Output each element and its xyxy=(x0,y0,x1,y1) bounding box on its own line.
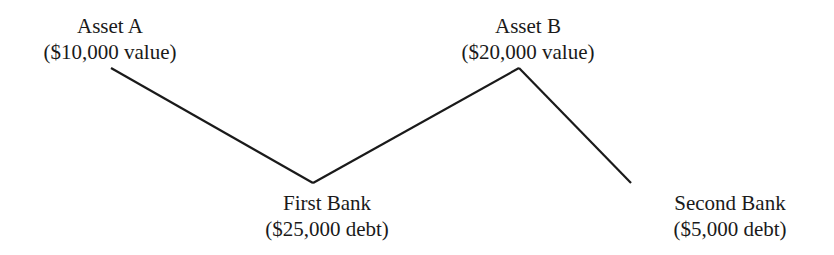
node-second-bank-detail: ($5,000 debt) xyxy=(630,216,830,242)
node-asset-b-name: Asset B xyxy=(418,13,638,39)
node-second-bank: Second Bank ($5,000 debt) xyxy=(630,190,830,242)
edge-asset-b-second-bank xyxy=(519,68,631,183)
node-asset-a: Asset A ($10,000 value) xyxy=(0,13,220,65)
node-first-bank: First Bank ($25,000 debt) xyxy=(222,190,432,242)
node-asset-a-detail: ($10,000 value) xyxy=(0,39,220,65)
node-asset-a-name: Asset A xyxy=(0,13,220,39)
edge-asset-b-first-bank xyxy=(313,68,519,183)
edge-asset-a-first-bank xyxy=(111,68,313,183)
node-asset-b: Asset B ($20,000 value) xyxy=(418,13,638,65)
node-first-bank-name: First Bank xyxy=(222,190,432,216)
node-asset-b-detail: ($20,000 value) xyxy=(418,39,638,65)
node-first-bank-detail: ($25,000 debt) xyxy=(222,216,432,242)
node-second-bank-name: Second Bank xyxy=(630,190,830,216)
